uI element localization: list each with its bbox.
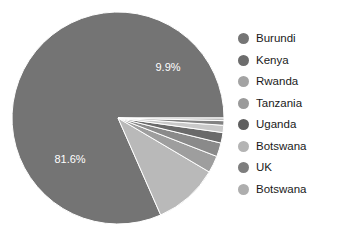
- legend-item[interactable]: UK: [238, 157, 344, 179]
- legend-item-label: UK: [256, 162, 272, 174]
- legend-item-label: Rwanda: [256, 76, 298, 88]
- legend-item[interactable]: Burundi: [238, 28, 344, 50]
- legend: Burundi Kenya Rwanda Tanzania Uganda Bot…: [238, 28, 344, 200]
- legend-item[interactable]: Uganda: [238, 114, 344, 136]
- legend-item-label: Burundi: [256, 33, 296, 45]
- legend-item[interactable]: Botswana: [238, 136, 344, 158]
- slice-label-kenya: 9.9%: [155, 61, 180, 73]
- legend-swatch-icon: [238, 162, 249, 173]
- legend-item-label: Uganda: [256, 119, 296, 131]
- legend-swatch-icon: [238, 184, 249, 195]
- legend-swatch-icon: [238, 33, 249, 44]
- pie-svg: 81.6%9.9%: [10, 10, 226, 226]
- pie-plot-area: 81.6%9.9%: [10, 10, 226, 226]
- legend-swatch-icon: [238, 141, 249, 152]
- pie-chart-figure: 81.6%9.9% Burundi Kenya Rwanda Tanzania …: [0, 0, 346, 233]
- legend-item[interactable]: Rwanda: [238, 71, 344, 93]
- slice-label-burundi: 81.6%: [54, 153, 85, 165]
- legend-item[interactable]: Kenya: [238, 50, 344, 72]
- legend-item-label: Kenya: [256, 55, 289, 67]
- legend-item[interactable]: Tanzania: [238, 93, 344, 115]
- legend-swatch-icon: [238, 119, 249, 130]
- pie-slices: [12, 12, 224, 224]
- legend-swatch-icon: [238, 55, 249, 66]
- legend-item-label: Botswana: [256, 141, 307, 153]
- legend-item[interactable]: Botswana: [238, 179, 344, 201]
- legend-swatch-icon: [238, 76, 249, 87]
- legend-item-label: Botswana: [256, 184, 307, 196]
- legend-swatch-icon: [238, 98, 249, 109]
- legend-item-label: Tanzania: [256, 98, 302, 110]
